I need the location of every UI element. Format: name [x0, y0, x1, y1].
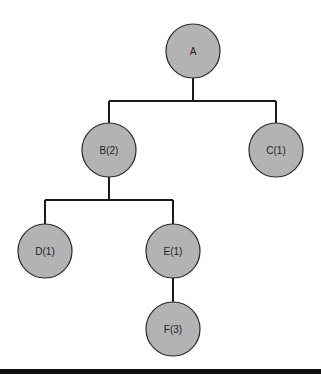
bottom-border-bar: [0, 369, 321, 374]
node-a-label: A: [190, 46, 197, 57]
node-f: F(3): [146, 302, 200, 356]
node-a: A: [166, 24, 220, 78]
node-e: E(1): [146, 224, 200, 278]
node-f-label: F(3): [164, 324, 182, 335]
node-b-label: B(2): [100, 145, 119, 156]
edge-a-bc: [109, 78, 276, 123]
tree-diagram: A B(2) C(1) D(1) E(1) F(3): [0, 0, 321, 374]
node-d: D(1): [18, 224, 72, 278]
node-c-label: C(1): [266, 145, 285, 156]
node-e-label: E(1): [164, 246, 183, 257]
node-c: C(1): [249, 123, 303, 177]
edge-b-de: [45, 177, 173, 224]
node-d-label: D(1): [35, 246, 54, 257]
node-b: B(2): [82, 123, 136, 177]
